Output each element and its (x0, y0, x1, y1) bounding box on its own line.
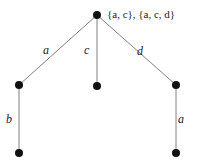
edge-label-c-center: c (84, 44, 89, 56)
graph-diagram: {a, c}, {a, c, d} a c d b a (0, 0, 199, 164)
root-set-label-text: {a, c}, {a, c, d} (107, 8, 175, 20)
edge-label-d-right: d (137, 45, 143, 57)
edge-label-b-left: b (6, 113, 12, 125)
edge-label-a-right: a (178, 113, 184, 125)
root-set-label: {a, c}, {a, c, d} (107, 9, 175, 20)
center-middle-node (93, 82, 101, 90)
right-middle-node (172, 81, 180, 89)
left-bottom-node (15, 149, 23, 157)
edge-label-a-left: a (43, 44, 49, 56)
left-middle-node (15, 81, 23, 89)
graph-canvas (0, 0, 199, 164)
root-node (93, 11, 101, 19)
right-bottom-node (172, 149, 180, 157)
